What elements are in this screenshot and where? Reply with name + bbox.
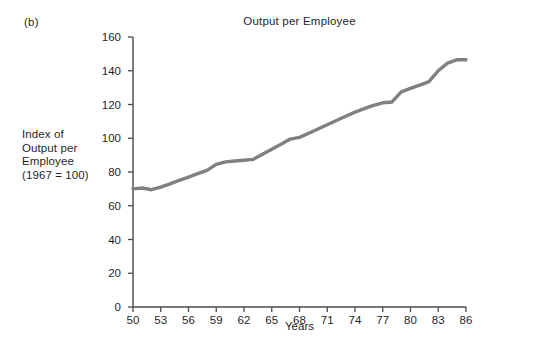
y-tick-label: 20 (81, 267, 121, 279)
axes (133, 37, 466, 307)
y-tick-label: 120 (81, 99, 121, 111)
plot-area (0, 0, 533, 344)
data-series-group (133, 60, 466, 190)
chart-figure: (b) Output per Employee Index of Output … (0, 0, 533, 344)
x-tick-marks (133, 307, 466, 312)
y-tick-label: 100 (81, 132, 121, 144)
y-tick-label: 160 (81, 31, 121, 43)
y-tick-label: 0 (81, 301, 121, 313)
y-tick-label: 40 (81, 234, 121, 246)
y-tick-label: 80 (81, 166, 121, 178)
y-tick-marks (128, 37, 133, 307)
y-tick-label: 140 (81, 65, 121, 77)
data-series-line (133, 60, 466, 190)
x-tick-label: 86 (449, 314, 483, 326)
y-tick-label: 60 (81, 200, 121, 212)
